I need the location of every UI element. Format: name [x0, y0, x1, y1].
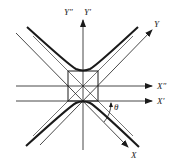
label-y-prime: Y′	[84, 7, 92, 17]
label-x: X	[130, 150, 137, 160]
label-y: Y	[154, 19, 160, 29]
label-y-double-prime: Y″	[64, 7, 73, 17]
label-x-prime: X′	[156, 96, 165, 106]
y-axis-rotated	[40, 30, 152, 145]
hyperbola-lower-branch	[26, 102, 139, 148]
hyperbola-diagram: Y″ Y′ Y X″ X′ X θ	[0, 0, 179, 161]
label-theta: θ	[114, 102, 119, 112]
label-x-double-prime: X″	[156, 81, 166, 91]
hyperbola-upper-branch	[27, 27, 138, 71]
x-axis-rotated	[16, 33, 128, 147]
